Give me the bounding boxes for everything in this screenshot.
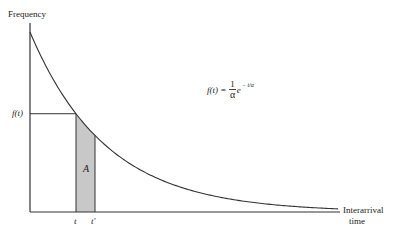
formula-lhs: f(t) = <box>207 85 226 95</box>
formula-exponent: − t/α <box>242 82 254 88</box>
f-t-marker-label: f(t) <box>12 108 23 118</box>
x-axis-label-line1: Interarrival <box>343 205 383 215</box>
formula-denominator: α <box>230 90 235 99</box>
formula-base: e <box>237 85 241 95</box>
x-tick-t-prime: t′ <box>91 216 95 226</box>
formula-fraction: 1 α <box>229 80 236 99</box>
density-formula: f(t) = 1 α e − t/α <box>207 80 254 99</box>
x-axis-label-line2: time <box>349 216 365 226</box>
y-axis-label: Frequency <box>8 9 46 19</box>
area-label: A <box>83 164 89 174</box>
x-tick-t: t <box>74 216 77 226</box>
exponential-density-chart <box>0 0 402 239</box>
